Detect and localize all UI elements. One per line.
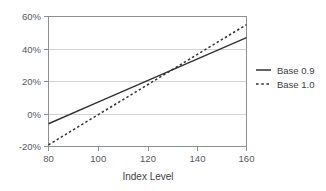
x-tick-label-1: 100 xyxy=(90,153,106,164)
y-tick-label-4: -20% xyxy=(19,141,42,152)
x-axis-title: Index Level xyxy=(122,171,173,182)
x-tick-label-2: 120 xyxy=(140,153,156,164)
legend-label-base-0-9: Base 0.9 xyxy=(277,65,315,76)
x-tick-label-0: 80 xyxy=(43,153,54,164)
x-tick-label-3: 140 xyxy=(190,153,206,164)
y-tick-label-1: 40% xyxy=(22,44,42,55)
line-chart: 60% 40% 20% 0% -20% 80 100 120 140 160 I… xyxy=(0,0,326,191)
legend-label-base-1-0: Base 1.0 xyxy=(277,79,315,90)
y-tick-label-3: 0% xyxy=(27,109,41,120)
x-tick-label-4: 160 xyxy=(239,153,255,164)
chart-container: 60% 40% 20% 0% -20% 80 100 120 140 160 I… xyxy=(0,0,326,191)
y-tick-label-2: 20% xyxy=(22,76,42,87)
y-tick-label-0: 60% xyxy=(22,11,42,22)
